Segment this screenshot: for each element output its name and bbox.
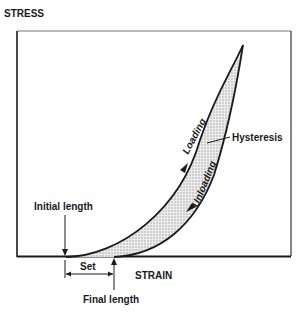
hysteresis-diagram: STRESS STRAIN Loading Unloading Hysteres… (0, 0, 306, 317)
x-axis-label: STRAIN (135, 270, 172, 281)
y-axis-label: STRESS (4, 8, 44, 19)
hysteresis-label: Hysteresis (232, 132, 283, 143)
final-length-arrow-icon (111, 258, 117, 265)
final-length-label: Final length (83, 294, 139, 305)
set-left-arrow-icon (66, 272, 71, 277)
initial-length-label: Initial length (34, 201, 93, 212)
initial-length-arrow-icon (62, 249, 68, 256)
hysteresis-region (66, 45, 243, 257)
set-label: Set (80, 261, 96, 272)
set-right-arrow-icon (108, 272, 113, 277)
